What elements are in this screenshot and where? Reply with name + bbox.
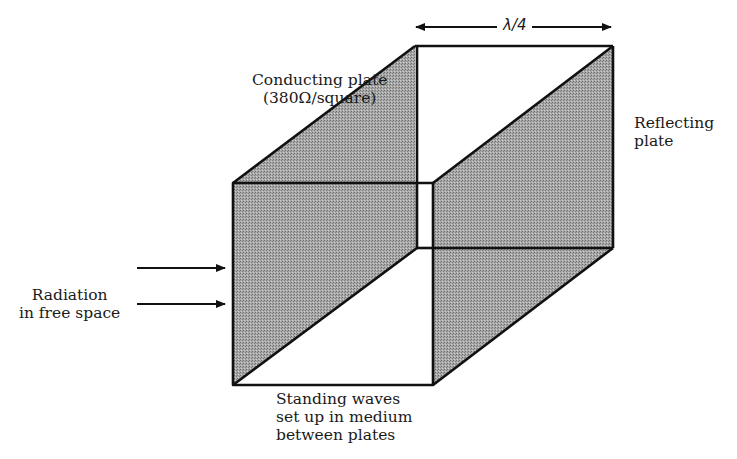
radiation-label: Radiation in free space <box>19 286 120 322</box>
absorber-diagram: λ/4 Conducting plate (380Ω/square) Refle… <box>0 0 737 459</box>
conducting-plate-label: Conducting plate (380Ω/square) <box>252 71 387 107</box>
reflecting-plate-label: Reflecting plate <box>634 114 714 150</box>
quarter-wavelength-label: λ/4 <box>499 16 530 34</box>
radiation-arrows <box>137 268 225 304</box>
standing-waves-label: Standing waves set up in medium between … <box>276 390 412 444</box>
